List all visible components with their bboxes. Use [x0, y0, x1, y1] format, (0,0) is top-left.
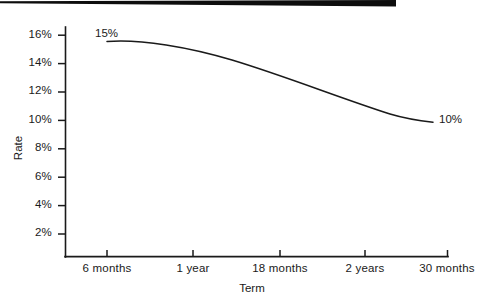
plot-area: [0, 0, 486, 305]
x-tick-label-18-months: 18 months: [252, 262, 308, 274]
x-tick-label-1-year: 1 year: [176, 262, 209, 274]
rate-vs-term-chart: 16% 14% 12% 10% 8% 6% 4% 2% 6 months 1 y…: [0, 0, 486, 305]
y-tick-label-2: 2%: [12, 226, 52, 238]
y-tick-label-4: 4%: [12, 198, 52, 210]
y-tick-label-16: 16%: [12, 28, 52, 40]
y-axis-title: Rate: [12, 124, 24, 172]
x-tick-label-6-months: 6 months: [83, 262, 132, 274]
start-value-label: 15%: [95, 27, 118, 39]
x-axis-title: Term: [239, 282, 265, 294]
y-tick-label-12: 12%: [12, 84, 52, 96]
y-tick-label-14: 14%: [12, 56, 52, 68]
x-tick-label-2-years: 2 years: [345, 262, 384, 274]
end-value-label: 10%: [439, 113, 462, 125]
rate-curve: [107, 41, 433, 122]
x-tick-label-30-months: 30 months: [419, 262, 475, 274]
